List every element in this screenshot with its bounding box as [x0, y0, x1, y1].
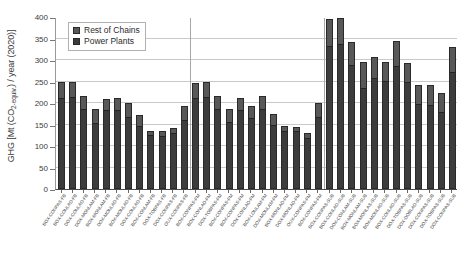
bar-33 [427, 85, 434, 189]
bar-32-rest-of-chains-segment [416, 86, 421, 105]
bar-1-rest-of-chains-segment [70, 83, 75, 98]
y-tick-label-400: 400 [18, 14, 48, 22]
x-tick-0 [61, 190, 62, 193]
bar-30-rest-of-chains-segment [394, 42, 399, 67]
x-tick-7 [139, 190, 140, 193]
y-axis-title-suffix: ) / year (2020)] [6, 30, 16, 87]
bar-35-rest-of-chains-segment [450, 48, 455, 73]
y-axis-title: GHG [Mt (CO2-equiv.) / year (2020)] [3, 0, 19, 196]
x-tick-24 [329, 190, 330, 193]
bar-9 [159, 131, 166, 189]
ghg-stacked-bar-chart: GHG [Mt (CO2-equiv.) / year (2020)] 0501… [0, 0, 466, 254]
bar-12-rest-of-chains-segment [193, 84, 198, 99]
bar-23-rest-of-chains-segment [316, 104, 321, 118]
y-tick-label-50: 50 [18, 165, 48, 173]
bar-17-rest-of-chains-segment [249, 107, 254, 119]
y-axis-title-subscript: 2-equiv. [10, 87, 17, 109]
bar-28-rest-of-chains-segment [372, 58, 377, 79]
bar-26-rest-of-chains-segment [349, 43, 354, 66]
y-tick-label-350: 350 [18, 36, 48, 44]
y-axis-title-prefix: GHG [Mt (CO [6, 109, 16, 162]
bar-18 [259, 96, 266, 189]
legend-swatch-power-plants [73, 38, 80, 45]
bar-29 [382, 62, 389, 189]
bar-14-rest-of-chains-segment [215, 97, 220, 110]
bar-4 [103, 99, 110, 189]
bar-28 [371, 57, 378, 189]
bar-21-rest-of-chains-segment [294, 128, 299, 133]
bar-0 [58, 82, 65, 189]
bar-13 [203, 82, 210, 189]
bar-23 [315, 103, 322, 189]
bar-18-rest-of-chains-segment [260, 97, 265, 110]
bar-27 [360, 62, 367, 189]
bar-8 [147, 131, 154, 189]
bar-3-rest-of-chains-segment [93, 110, 98, 124]
y-tick-label-300: 300 [18, 57, 48, 65]
bar-0-rest-of-chains-segment [59, 83, 64, 98]
group-separator-after-23 [324, 18, 325, 189]
bar-11-rest-of-chains-segment [182, 107, 187, 121]
bar-24-rest-of-chains-segment [327, 20, 332, 47]
bar-14 [214, 96, 221, 189]
x-tick-30 [396, 190, 397, 193]
bar-5-rest-of-chains-segment [115, 99, 120, 111]
legend-item-rest-of-chains: Rest of Chains [73, 25, 140, 36]
x-tick-31 [407, 190, 408, 193]
bar-7 [136, 115, 143, 189]
bar-15 [226, 109, 233, 189]
bar-34 [438, 93, 445, 189]
legend-item-power-plants: Power Plants [73, 36, 140, 47]
x-tick-19 [273, 190, 274, 193]
bar-19 [270, 114, 277, 189]
y-tick-label-0: 0 [18, 186, 48, 194]
bar-2 [80, 96, 87, 189]
bar-24 [326, 19, 333, 189]
bar-17 [248, 106, 255, 189]
x-tick-25 [340, 190, 341, 193]
bar-32 [415, 85, 422, 189]
bar-25 [337, 18, 344, 189]
group-separator-after-11 [190, 18, 191, 189]
y-tick-mark-0 [50, 190, 55, 191]
x-tick-6 [128, 190, 129, 193]
bar-10 [170, 128, 177, 189]
bar-16-rest-of-chains-segment [238, 99, 243, 111]
bar-5 [114, 98, 121, 189]
bar-21 [293, 127, 300, 189]
legend-label-power-plants: Power Plants [84, 36, 134, 47]
bar-20-rest-of-chains-segment [282, 127, 287, 131]
bar-6 [125, 103, 132, 189]
bar-16 [237, 98, 244, 189]
y-tick-label-250: 250 [18, 79, 48, 87]
bar-13-rest-of-chains-segment [204, 83, 209, 98]
bar-22-rest-of-chains-segment [305, 134, 310, 139]
bar-15-rest-of-chains-segment [227, 110, 232, 124]
bar-10-rest-of-chains-segment [171, 129, 176, 134]
bar-6-rest-of-chains-segment [126, 104, 131, 117]
chart-legend: Rest of Chains Power Plants [68, 22, 146, 51]
y-tick-label-150: 150 [18, 122, 48, 130]
bar-11 [181, 106, 188, 189]
bar-31-rest-of-chains-segment [405, 64, 410, 83]
bar-31 [404, 63, 411, 189]
x-tick-1 [72, 190, 73, 193]
bar-4-rest-of-chains-segment [104, 100, 109, 112]
bar-19-rest-of-chains-segment [271, 115, 276, 126]
x-tick-13 [206, 190, 207, 193]
bar-25-rest-of-chains-segment [338, 19, 343, 45]
bar-30 [393, 41, 400, 189]
legend-label-rest-of-chains: Rest of Chains [84, 25, 140, 36]
bar-34-rest-of-chains-segment [439, 94, 444, 113]
bar-3 [92, 109, 99, 189]
bar-35 [449, 47, 456, 189]
legend-swatch-rest-of-chains [73, 27, 80, 34]
bar-29-rest-of-chains-segment [383, 63, 388, 82]
bar-9-rest-of-chains-segment [160, 132, 165, 137]
bar-8-rest-of-chains-segment [148, 132, 153, 136]
y-tick-label-100: 100 [18, 143, 48, 151]
bar-22 [304, 133, 311, 189]
bar-7-rest-of-chains-segment [137, 116, 142, 127]
bar-26 [348, 42, 355, 189]
bar-27-rest-of-chains-segment [361, 63, 366, 89]
